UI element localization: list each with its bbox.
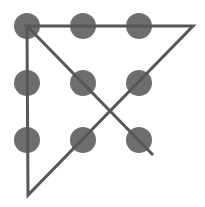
- nine-dots-diagram: [0, 0, 205, 207]
- connecting-lines: [27, 26, 193, 195]
- diagram-canvas: [0, 0, 205, 207]
